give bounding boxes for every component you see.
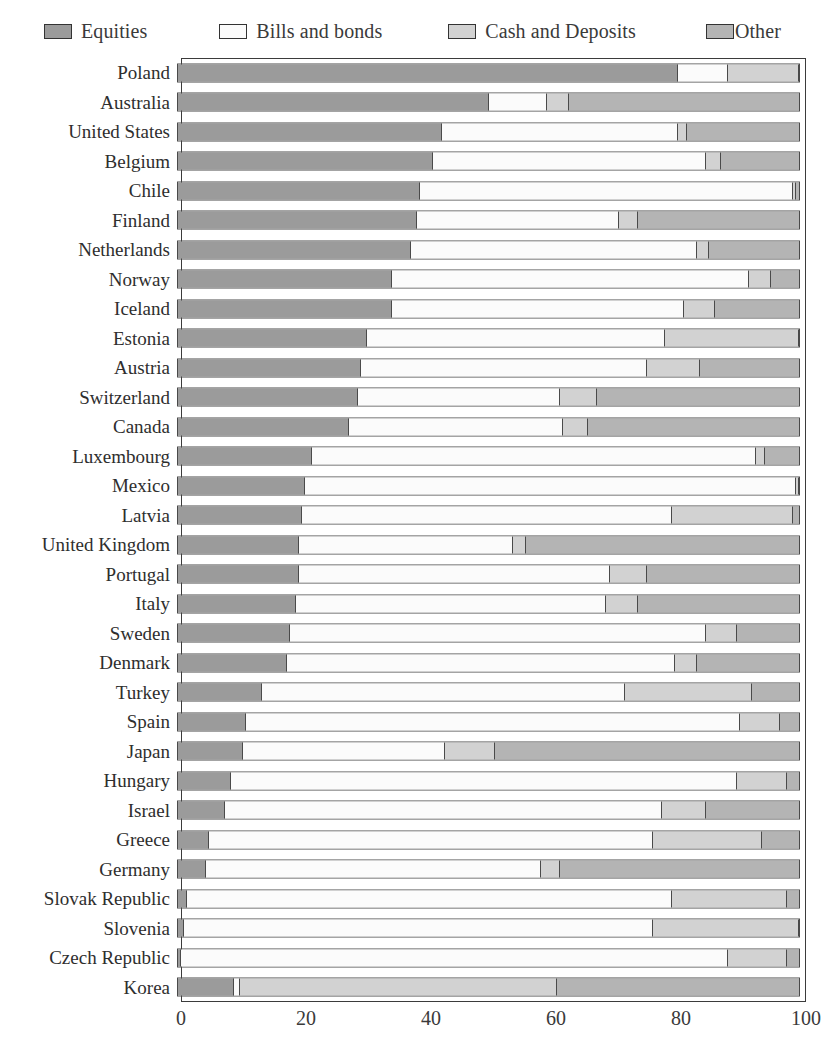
bar-segment-bills-and-bonds[interactable] xyxy=(411,241,697,258)
bar-segment-equities[interactable] xyxy=(178,743,243,760)
stacked-bar[interactable] xyxy=(177,417,800,436)
bar-segment-other[interactable] xyxy=(706,802,799,819)
stacked-bar[interactable] xyxy=(177,358,800,377)
stacked-bar[interactable] xyxy=(177,476,800,495)
bar-segment-bills-and-bonds[interactable] xyxy=(302,507,671,524)
bar-segment-other[interactable] xyxy=(569,94,799,111)
bar-segment-cash-and-deposits[interactable] xyxy=(706,625,737,642)
bar-segment-other[interactable] xyxy=(638,212,799,229)
bar-segment-equities[interactable] xyxy=(178,831,209,848)
bar-segment-bills-and-bonds[interactable] xyxy=(417,212,619,229)
stacked-bar[interactable] xyxy=(177,771,800,790)
bar-segment-equities[interactable] xyxy=(178,418,349,435)
bar-segment-other[interactable] xyxy=(780,713,799,730)
bar-segment-bills-and-bonds[interactable] xyxy=(206,861,541,878)
bar-segment-equities[interactable] xyxy=(178,94,489,111)
bar-segment-equities[interactable] xyxy=(178,389,358,406)
bar-segment-cash-and-deposits[interactable] xyxy=(728,64,799,81)
bar-segment-equities[interactable] xyxy=(178,802,225,819)
bar-segment-bills-and-bonds[interactable] xyxy=(392,271,749,288)
bar-segment-other[interactable] xyxy=(495,743,799,760)
bar-segment-bills-and-bonds[interactable] xyxy=(420,182,793,199)
bar-segment-cash-and-deposits[interactable] xyxy=(606,595,637,612)
bar-segment-equities[interactable] xyxy=(178,684,262,701)
bar-segment-cash-and-deposits[interactable] xyxy=(740,713,780,730)
bar-segment-other[interactable] xyxy=(687,123,799,140)
stacked-bar[interactable] xyxy=(177,63,800,82)
bar-segment-cash-and-deposits[interactable] xyxy=(672,507,793,524)
bar-segment-equities[interactable] xyxy=(178,64,678,81)
bar-segment-equities[interactable] xyxy=(178,566,299,583)
stacked-bar[interactable] xyxy=(177,270,800,289)
legend-item-other[interactable]: Other xyxy=(706,21,781,41)
bar-segment-bills-and-bonds[interactable] xyxy=(187,890,671,907)
bar-segment-equities[interactable] xyxy=(178,772,231,789)
bar-segment-bills-and-bonds[interactable] xyxy=(299,536,513,553)
bar-segment-cash-and-deposits[interactable] xyxy=(445,743,495,760)
bar-segment-other[interactable] xyxy=(709,241,799,258)
bar-segment-bills-and-bonds[interactable] xyxy=(678,64,728,81)
bar-segment-bills-and-bonds[interactable] xyxy=(209,831,653,848)
bar-segment-bills-and-bonds[interactable] xyxy=(367,330,665,347)
bar-segment-cash-and-deposits[interactable] xyxy=(653,920,799,937)
bar-segment-bills-and-bonds[interactable] xyxy=(433,153,706,170)
bar-segment-equities[interactable] xyxy=(178,330,367,347)
stacked-bar[interactable] xyxy=(177,181,800,200)
stacked-bar[interactable] xyxy=(177,594,800,613)
bar-segment-cash-and-deposits[interactable] xyxy=(647,359,700,376)
stacked-bar[interactable] xyxy=(177,742,800,761)
bar-segment-bills-and-bonds[interactable] xyxy=(305,477,796,494)
bar-segment-equities[interactable] xyxy=(178,123,442,140)
stacked-bar[interactable] xyxy=(177,624,800,643)
bar-segment-bills-and-bonds[interactable] xyxy=(184,920,653,937)
bar-segment-equities[interactable] xyxy=(178,359,361,376)
bar-segment-other[interactable] xyxy=(793,507,799,524)
bar-segment-cash-and-deposits[interactable] xyxy=(240,979,557,996)
stacked-bar[interactable] xyxy=(177,535,800,554)
bar-segment-equities[interactable] xyxy=(178,861,206,878)
bar-segment-other[interactable] xyxy=(697,654,799,671)
stacked-bar[interactable] xyxy=(177,565,800,584)
bar-segment-other[interactable] xyxy=(557,979,799,996)
bar-segment-equities[interactable] xyxy=(178,241,411,258)
bar-segment-bills-and-bonds[interactable] xyxy=(358,389,560,406)
bar-segment-cash-and-deposits[interactable] xyxy=(749,271,771,288)
bar-segment-equities[interactable] xyxy=(178,713,246,730)
bar-segment-cash-and-deposits[interactable] xyxy=(756,448,765,465)
bar-segment-cash-and-deposits[interactable] xyxy=(563,418,588,435)
stacked-bar[interactable] xyxy=(177,919,800,938)
bar-segment-bills-and-bonds[interactable] xyxy=(299,566,610,583)
bar-segment-equities[interactable] xyxy=(178,979,234,996)
bar-segment-other[interactable] xyxy=(526,536,799,553)
bar-segment-other[interactable] xyxy=(787,890,799,907)
bar-segment-cash-and-deposits[interactable] xyxy=(678,123,687,140)
legend-item-cash-and-deposits[interactable]: Cash and Deposits xyxy=(448,21,636,41)
bar-segment-bills-and-bonds[interactable] xyxy=(181,949,727,966)
stacked-bar[interactable] xyxy=(177,152,800,171)
bar-segment-other[interactable] xyxy=(762,831,799,848)
stacked-bar[interactable] xyxy=(177,683,800,702)
bar-segment-cash-and-deposits[interactable] xyxy=(796,477,799,494)
bar-segment-other[interactable] xyxy=(787,772,799,789)
stacked-bar[interactable] xyxy=(177,653,800,672)
bar-segment-cash-and-deposits[interactable] xyxy=(706,153,722,170)
bar-segment-cash-and-deposits[interactable] xyxy=(619,212,638,229)
bar-segment-equities[interactable] xyxy=(178,595,296,612)
bar-segment-cash-and-deposits[interactable] xyxy=(560,389,597,406)
bar-segment-bills-and-bonds[interactable] xyxy=(392,300,684,317)
stacked-bar[interactable] xyxy=(177,299,800,318)
bar-segment-cash-and-deposits[interactable] xyxy=(653,831,762,848)
bar-segment-bills-and-bonds[interactable] xyxy=(349,418,563,435)
bar-segment-cash-and-deposits[interactable] xyxy=(610,566,647,583)
legend-item-bills-and-bonds[interactable]: Bills and bonds xyxy=(219,21,382,41)
bar-segment-cash-and-deposits[interactable] xyxy=(672,890,787,907)
bar-segment-other[interactable] xyxy=(597,389,799,406)
bar-segment-equities[interactable] xyxy=(178,212,417,229)
bar-segment-cash-and-deposits[interactable] xyxy=(697,241,709,258)
bar-segment-cash-and-deposits[interactable] xyxy=(737,772,787,789)
bar-segment-other[interactable] xyxy=(796,182,799,199)
bar-segment-equities[interactable] xyxy=(178,890,187,907)
bar-segment-bills-and-bonds[interactable] xyxy=(489,94,548,111)
bar-segment-equities[interactable] xyxy=(178,300,392,317)
bar-segment-other[interactable] xyxy=(715,300,799,317)
